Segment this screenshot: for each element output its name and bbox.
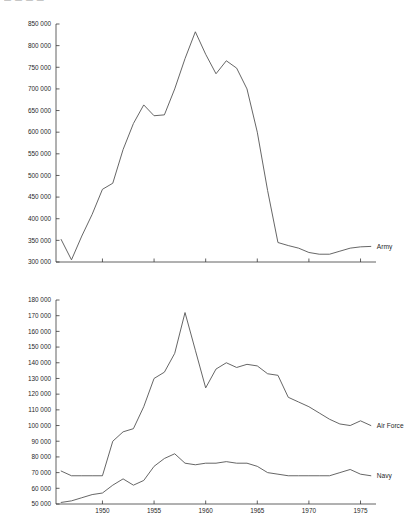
y-axis-tick-label: 70 000: [31, 469, 51, 476]
y-axis-tick-label: 50 000: [31, 500, 51, 507]
y-axis-tick-label: 400 000: [28, 215, 52, 222]
y-axis-tick-label: 350 000: [28, 237, 52, 244]
y-axis-tick-label: 180 000: [28, 296, 52, 303]
chart-page: — — — — 850 000800 000750 000700 000650 …: [0, 0, 420, 532]
y-axis-tick-label: 750 000: [28, 64, 52, 71]
series-line-air-force: [61, 313, 371, 476]
x-axis-tick-label: 1975: [353, 507, 368, 514]
y-axis-tick-label: 300 000: [28, 258, 52, 265]
chart-panel-air-force-navy: 180 000170 000160 000150 000140 000130 0…: [0, 292, 420, 532]
series-label-air-force: Air Force: [377, 422, 404, 429]
y-axis-tick-label: 650 000: [28, 107, 52, 114]
y-axis-tick-label: 130 000: [28, 375, 52, 382]
x-axis-tick-label: 1960: [199, 507, 214, 514]
y-axis-tick-label: 170 000: [28, 312, 52, 319]
y-axis-tick-label: 500 000: [28, 172, 52, 179]
x-axis-tick-label: 1950: [95, 507, 110, 514]
y-axis-tick-label: 700 000: [28, 85, 52, 92]
x-axis-tick-label: 1965: [250, 507, 265, 514]
y-axis-tick-label: 850 000: [28, 20, 52, 27]
y-axis-tick-label: 150 000: [28, 343, 52, 350]
y-axis-tick-label: 90 000: [31, 438, 51, 445]
y-axis-tick-label: 800 000: [28, 42, 52, 49]
y-axis-tick-label: 100 000: [28, 422, 52, 429]
y-axis-tick-label: 600 000: [28, 128, 52, 135]
army-chart-svg: 850 000800 000750 000700 000650 000600 0…: [0, 16, 420, 280]
y-axis-tick-label: 60 000: [31, 485, 51, 492]
x-axis-tick-label: 1970: [302, 507, 317, 514]
y-axis-tick-label: 450 000: [28, 193, 52, 200]
y-axis-tick-label: 80 000: [31, 453, 51, 460]
series-line-army: [61, 32, 371, 260]
y-axis-tick-label: 140 000: [28, 359, 52, 366]
y-axis-tick-label: 110 000: [28, 406, 51, 413]
x-axis-tick-label: 1955: [147, 507, 162, 514]
y-axis-tick-label: 550 000: [28, 150, 52, 157]
y-axis-tick-label: 120 000: [28, 390, 52, 397]
chart-panel-army: 850 000800 000750 000700 000650 000600 0…: [0, 16, 420, 280]
series-label-navy: Navy: [377, 472, 393, 480]
series-line-navy: [61, 454, 371, 503]
y-axis-tick-label: 160 000: [28, 328, 52, 335]
series-label-army: Army: [377, 243, 393, 251]
air-force-navy-chart-svg: 180 000170 000160 000150 000140 000130 0…: [0, 292, 420, 532]
clipped-header-text: — — — —: [4, 0, 45, 4]
